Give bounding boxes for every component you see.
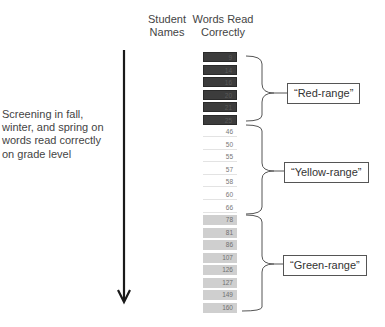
words-read-column: 9141620212546505557586066788186107126127… (203, 52, 237, 315)
yellow-range-score-cell: 57 (203, 165, 237, 175)
green-range-score-cell: 127 (203, 278, 237, 288)
green-range-brace (242, 215, 274, 311)
red-range-score-cell: 14 (203, 65, 237, 75)
yellow-range-score-cell: 60 (203, 190, 237, 200)
yellow-range-score-cell: 55 (203, 152, 237, 162)
green-range-score-cell: 126 (203, 265, 237, 275)
yellow-range-brace (246, 125, 274, 214)
red-range-score-cell: 16 (203, 77, 237, 87)
yellow-range-score-cell: 66 (203, 203, 237, 213)
yellow-range-score-cell: 46 (203, 127, 237, 137)
red-range-label: “Red-range” (287, 83, 360, 104)
red-range-score-cell: 21 (203, 102, 237, 112)
green-range-label: “Green-range” (283, 255, 367, 276)
green-range-score-cell: 78 (203, 215, 237, 225)
red-range-score-cell: 9 (203, 52, 237, 62)
yellow-range-score-cell: 58 (203, 177, 237, 187)
red-range-score-cell: 20 (203, 90, 237, 100)
green-range-score-cell: 107 (203, 253, 237, 263)
screening-description: Screening in fall, winter, and spring on… (2, 108, 107, 161)
green-range-score-cell: 160 (203, 303, 237, 313)
green-range-score-cell: 81 (203, 228, 237, 238)
red-range-brace (246, 56, 274, 121)
yellow-range-label: “Yellow-range” (284, 162, 369, 183)
green-range-score-cell: 149 (203, 290, 237, 300)
down-arrow-icon (117, 50, 131, 308)
words-read-correctly-header: Words Read Correctly (183, 13, 263, 39)
red-range-score-cell: 25 (203, 115, 237, 125)
green-range-score-cell: 86 (203, 240, 237, 250)
yellow-range-score-cell: 50 (203, 140, 237, 150)
